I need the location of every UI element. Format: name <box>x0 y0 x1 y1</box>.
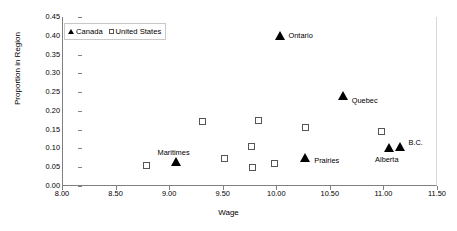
x-axis-tick-mark <box>330 186 331 190</box>
data-point-label: Quebec <box>352 97 378 105</box>
x-axis-tick-mark <box>276 186 277 190</box>
data-point-united-states <box>271 160 278 167</box>
x-axis-tick-mark <box>223 186 224 190</box>
data-point-label: Maritimes <box>158 149 190 157</box>
data-point-united-states <box>302 124 309 131</box>
x-axis-tick-mark <box>62 186 63 190</box>
scatter-chart: 0.000.050.100.150.200.250.300.350.400.45… <box>0 0 457 231</box>
data-point-label: Prairies <box>314 157 339 165</box>
data-point-label: B.C. <box>409 139 423 147</box>
data-point-united-states <box>143 162 150 169</box>
data-point-label: Alberta <box>375 156 398 164</box>
x-axis-tick-mark <box>169 186 170 190</box>
data-point-united-states <box>378 128 385 135</box>
data-point-canada <box>275 31 285 40</box>
data-point-canada <box>395 142 405 151</box>
x-axis-tick-mark <box>437 186 438 190</box>
data-point-label: Ontario <box>289 32 313 40</box>
data-point-canada <box>384 143 394 152</box>
data-point-united-states <box>249 164 256 171</box>
data-points-layer: MaritimesOntarioQuebecPrairiesAlbertaB.C… <box>0 0 457 231</box>
data-point-canada <box>338 91 348 100</box>
data-point-canada <box>171 157 181 166</box>
x-axis-tick-mark <box>383 186 384 190</box>
data-point-united-states <box>199 118 206 125</box>
data-point-united-states <box>221 155 228 162</box>
x-axis-tick-mark <box>116 186 117 190</box>
data-point-canada <box>300 153 310 162</box>
data-point-united-states <box>248 143 255 150</box>
data-point-united-states <box>255 117 262 124</box>
